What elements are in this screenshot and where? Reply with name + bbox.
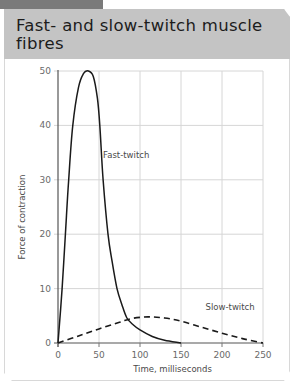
line-chart: 05010015020025001020304050 Time, millise… bbox=[0, 0, 294, 385]
fast-twitch-annotation: Fast-twitch bbox=[103, 150, 149, 160]
fast-twitch-line bbox=[58, 71, 181, 343]
x-axis-label: Time, milliseconds bbox=[132, 364, 212, 374]
x-tick-label: 200 bbox=[213, 350, 230, 360]
y-tick-label: 0 bbox=[45, 338, 51, 348]
x-tick-label: 250 bbox=[254, 350, 271, 360]
x-tick-label: 150 bbox=[172, 350, 189, 360]
labels: Time, millisecondsForce of contractionFa… bbox=[17, 150, 255, 374]
y-axis-label: Force of contraction bbox=[17, 175, 27, 260]
y-tick-label: 10 bbox=[40, 284, 52, 294]
y-tick-label: 40 bbox=[40, 120, 52, 130]
x-tick-label: 0 bbox=[55, 350, 61, 360]
x-tick-label: 100 bbox=[131, 350, 148, 360]
slow-twitch-annotation: Slow-twitch bbox=[206, 302, 255, 312]
x-tick-label: 50 bbox=[93, 350, 105, 360]
y-tick-label: 30 bbox=[40, 175, 52, 185]
y-tick-label: 50 bbox=[40, 66, 52, 76]
y-tick-label: 20 bbox=[40, 229, 52, 239]
